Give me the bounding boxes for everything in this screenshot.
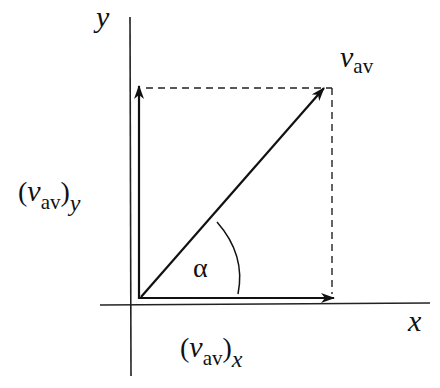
- component-axis: x: [232, 346, 243, 372]
- vector-subscript: av: [353, 54, 373, 78]
- y-component-label: (vav)y: [18, 174, 80, 208]
- component-subscript: av: [203, 346, 223, 370]
- component-axis: y: [70, 190, 81, 216]
- component-symbol: v: [189, 330, 202, 363]
- x-component-label: (vav)x: [180, 330, 242, 364]
- y-axis: [130, 17, 131, 376]
- close-paren: ): [222, 332, 231, 363]
- angle-arc: [217, 222, 240, 294]
- vector-symbol: v: [340, 40, 353, 73]
- vector-label: vav: [340, 40, 373, 74]
- open-paren: (: [180, 332, 189, 363]
- component-symbol: v: [27, 174, 40, 207]
- close-paren: ): [60, 176, 69, 207]
- angle-label: α: [193, 252, 208, 284]
- vector-diagram: y x vav (vav)y (vav)x α: [0, 0, 440, 388]
- open-paren: (: [18, 176, 27, 207]
- component-subscript: av: [41, 190, 61, 214]
- x-axis-label: x: [408, 304, 421, 338]
- x-axis: [100, 303, 430, 305]
- average-velocity-arrow: [141, 88, 324, 297]
- y-axis-label: y: [96, 0, 109, 34]
